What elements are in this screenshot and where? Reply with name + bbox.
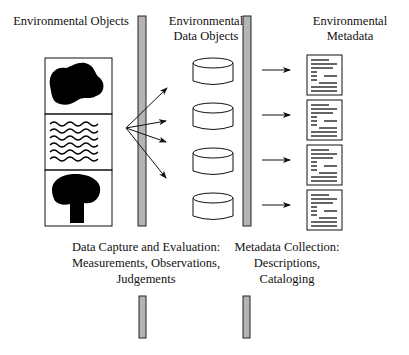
cylinder-icon <box>193 148 233 175</box>
metadata-process-line3: Cataloging <box>222 272 352 287</box>
metadata-process-line1: Metadata Collection: <box>222 240 352 255</box>
document-icon <box>307 145 342 185</box>
process-bar-capture-stub <box>139 296 146 338</box>
metadata-documents <box>307 55 342 230</box>
process-bar-metadata-stub <box>243 296 250 338</box>
capture-process-line1: Data Capture and Evaluation: <box>66 240 226 255</box>
document-icon <box>307 100 342 140</box>
cylinder-icon <box>193 103 233 130</box>
diagram-canvas: Environmental Objects Environmental Data… <box>0 0 409 355</box>
capture-process-line3: Judgements <box>66 272 226 287</box>
document-icon <box>307 190 342 230</box>
waves-icon <box>50 122 98 161</box>
document-icon <box>307 55 342 95</box>
capture-process-line2: Measurements, Observations, <box>66 256 226 271</box>
blob-icon <box>50 63 104 105</box>
process-bar-metadata <box>243 16 251 226</box>
diagram-graphics <box>0 0 409 355</box>
data-object-cylinders <box>193 58 233 220</box>
cylinder-icon <box>193 58 233 85</box>
process-bar-capture <box>138 16 146 226</box>
cylinder-icon <box>193 193 233 220</box>
metadata-process-line2: Descriptions, <box>222 256 352 271</box>
tree-icon <box>52 174 100 223</box>
metadata-arrows <box>262 70 290 205</box>
